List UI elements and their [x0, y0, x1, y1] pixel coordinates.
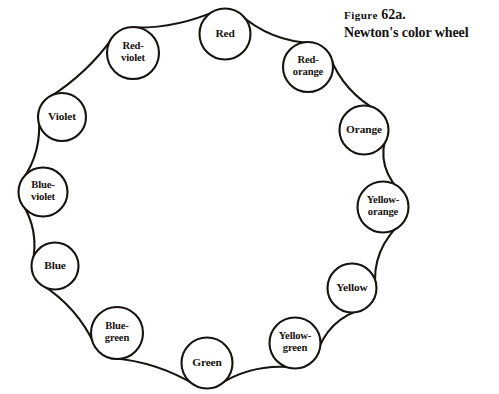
node-label-yellow-orange: Yellow-orange	[367, 195, 400, 217]
node-label-yellow-green: Yellow-green	[279, 331, 312, 353]
node-label-line: Yellow-	[367, 195, 400, 206]
color-node-yellow-orange[interactable]: Yellow-orange	[358, 182, 409, 233]
node-label-red-violet: Red-violet	[121, 41, 145, 63]
color-node-green[interactable]: Green	[182, 338, 233, 389]
node-label-line: green	[283, 342, 308, 353]
node-label-yellow: Yellow	[336, 281, 368, 293]
node-label-orange: Orange	[346, 123, 382, 135]
color-node-red[interactable]: Red	[200, 9, 251, 60]
color-node-yellow-green[interactable]: Yellow-green	[270, 318, 321, 369]
figure-root: Figure 62a. Newton's color wheel RedRed-…	[0, 0, 499, 394]
node-label-violet: Violet	[48, 110, 76, 122]
node-label-blue-green: Blue-green	[105, 321, 130, 343]
node-label-line: Red	[215, 27, 235, 39]
node-label-line: Blue-	[31, 180, 55, 191]
wheel-arc-yellow-to-yellow-green	[316, 308, 365, 356]
wheel-arc-red-orange-to-orange	[330, 56, 380, 111]
node-label-line: orange	[368, 206, 399, 217]
color-node-red-violet[interactable]: Red-violet	[107, 27, 159, 79]
node-label-line: Blue-	[105, 321, 129, 332]
color-node-violet[interactable]: Violet	[38, 93, 86, 141]
color-node-red-orange[interactable]: Red-orange	[283, 42, 333, 92]
node-label-line: Yellow	[336, 281, 368, 293]
color-node-blue-green[interactable]: Blue-green	[91, 307, 143, 359]
node-label-line: violet	[121, 52, 145, 63]
node-label-line: green	[105, 332, 130, 343]
node-label-line: Violet	[48, 110, 76, 122]
node-label-line: Yellow-	[279, 331, 312, 342]
node-label-blue-violet: Blue-violet	[31, 180, 55, 202]
node-label-line: Green	[192, 356, 222, 368]
color-node-blue-violet[interactable]: Blue-violet	[19, 168, 68, 217]
node-label-line: Orange	[346, 123, 382, 135]
node-label-line: Red-	[122, 41, 144, 52]
node-label-line: orange	[293, 66, 324, 77]
node-label-green: Green	[192, 356, 222, 368]
wheel-arc-violet-to-red-violet	[49, 38, 113, 98]
color-node-orange[interactable]: Orange	[340, 106, 389, 155]
color-node-yellow[interactable]: Yellow	[328, 264, 377, 313]
node-label-line: violet	[31, 191, 55, 202]
node-label-line: Blue	[44, 259, 66, 271]
wheel-node-layer: RedRed-orangeOrangeYellow-orangeYellowYe…	[19, 9, 409, 389]
color-wheel-diagram: RedRed-orangeOrangeYellow-orangeYellowYe…	[0, 0, 499, 394]
node-label-red: Red	[215, 27, 235, 39]
node-label-blue: Blue	[44, 259, 66, 271]
wheel-arc-blue-green-to-blue	[40, 284, 95, 346]
wheel-arc-layer	[21, 11, 406, 386]
color-node-blue[interactable]: Blue	[32, 243, 79, 290]
node-label-line: Red-	[297, 55, 319, 66]
